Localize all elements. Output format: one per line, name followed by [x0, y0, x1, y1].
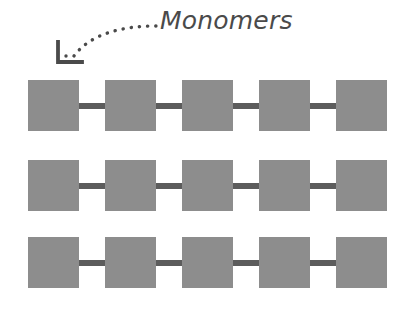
monomer-square — [105, 160, 156, 211]
bond-connector — [79, 183, 105, 189]
monomer-square — [105, 237, 156, 288]
monomer-square — [336, 237, 387, 288]
monomer-square — [182, 80, 233, 131]
monomer-square — [259, 237, 310, 288]
monomer-square — [336, 80, 387, 131]
bond-connector — [233, 183, 259, 189]
bond-connector — [79, 103, 105, 109]
polymer-chain-row-2 — [28, 160, 387, 211]
bond-connector — [156, 260, 182, 266]
bond-connector — [156, 183, 182, 189]
bond-connector — [310, 183, 336, 189]
polymer-chain-row-1 — [28, 80, 387, 131]
monomer-square — [259, 80, 310, 131]
monomer-square — [336, 160, 387, 211]
bond-connector — [310, 260, 336, 266]
monomer-square — [182, 237, 233, 288]
bond-connector — [233, 103, 259, 109]
monomers-label: Monomers — [160, 8, 293, 33]
monomer-square — [28, 237, 79, 288]
monomer-square — [105, 80, 156, 131]
monomer-square — [28, 80, 79, 131]
dotted-arrow-icon — [50, 20, 170, 75]
bond-connector — [233, 260, 259, 266]
polymer-diagram: Monomers — [0, 0, 407, 311]
monomer-square — [182, 160, 233, 211]
monomer-square — [259, 160, 310, 211]
polymer-chain-row-3 — [28, 237, 387, 288]
monomer-square — [28, 160, 79, 211]
bond-connector — [310, 103, 336, 109]
bond-connector — [156, 103, 182, 109]
bond-connector — [79, 260, 105, 266]
